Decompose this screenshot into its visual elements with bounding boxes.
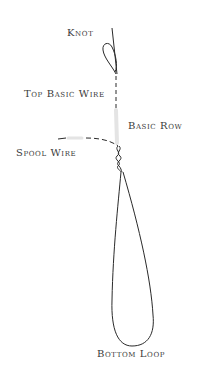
spool-wire-label: Spool Wire <box>16 147 76 159</box>
bottom-loop-label: Bottom Loop <box>97 348 165 360</box>
wire-illustration <box>0 0 209 371</box>
basic-row-line <box>116 110 117 143</box>
wire-diagram: Knot Top Basic Wire Basic Row Spool Wire… <box>0 0 209 371</box>
basic-row-label: Basic Row <box>128 120 182 132</box>
twisted-wire <box>116 146 122 172</box>
knot-shape <box>103 28 117 74</box>
knot-label: Knot <box>67 27 93 39</box>
bottom-loop-shape <box>112 172 153 346</box>
top-basic-wire-label: Top Basic Wire <box>24 88 105 100</box>
spool-wire-line <box>58 138 118 146</box>
